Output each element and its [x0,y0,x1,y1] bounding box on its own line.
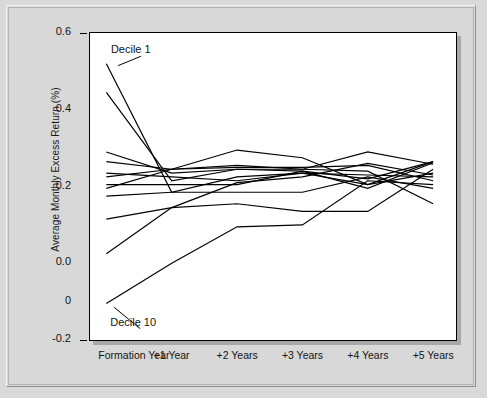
chart-page: Average Monthly Excess Return (%) 0.60.4… [0,0,487,398]
series-line [106,64,433,193]
y-tick-label: 0.0 [37,255,71,267]
x-tick-label: +5 Years [413,349,454,361]
x-tick-label: +3 Years [282,349,323,361]
line-series-group [90,33,456,340]
y-tick-label: 0.6 [37,25,71,37]
plot-area [89,32,457,341]
y-axis-label: Average Monthly Excess Return (%) [50,60,61,280]
series-annotation: Decile 1 [111,43,151,55]
series-annotation: Decile 10 [110,316,156,328]
x-tick-label: +1 Year [154,349,190,361]
x-tick-label: +2 Years [217,349,258,361]
y-tick-label: 0 [37,294,71,306]
x-tick-label: +4 Years [347,349,388,361]
y-tick-label: 0.2 [37,179,71,191]
annotation-leader-line [118,56,141,65]
y-tick-mark [80,340,87,341]
series-line [106,181,433,304]
figure-panel: Average Monthly Excess Return (%) 0.60.4… [6,5,476,387]
y-tick-mark [80,33,87,34]
y-tick-label: -0.2 [37,332,71,344]
y-tick-label: 0.4 [37,102,71,114]
